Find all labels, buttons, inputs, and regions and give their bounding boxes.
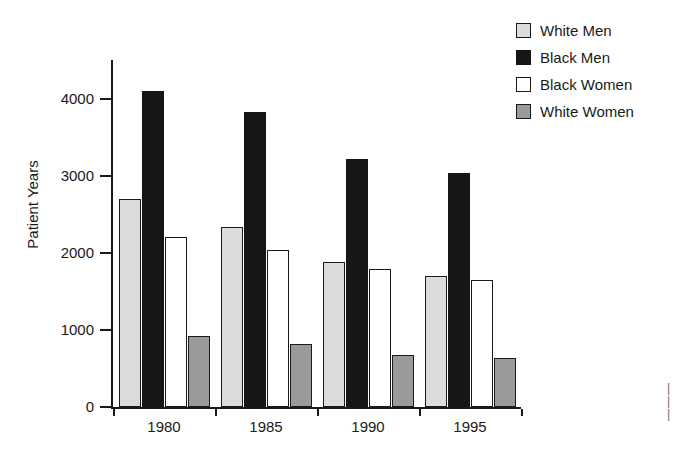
y-axis-title: Patient Years [24, 125, 41, 285]
y-tick-label-text: 2000 [32, 245, 94, 260]
x-tick-1995 [419, 409, 421, 416]
bar-1985-black-men [244, 112, 266, 407]
y-tick-label-text: 3000 [32, 168, 94, 183]
bar-1985-white-men [221, 227, 243, 407]
bar-1990-black-women [369, 269, 391, 407]
bar-1995-white-women [494, 358, 516, 407]
y-tick-1000 [100, 329, 111, 331]
legend-swatch-icon [516, 23, 531, 38]
bar-1990-black-men [346, 159, 368, 407]
x-tick-label-1995: 1995 [425, 418, 515, 435]
y-tick-label-4000: 4000 [26, 91, 94, 106]
legend-swatch-icon [516, 50, 531, 65]
bar-1980-black-women [165, 237, 187, 407]
legend-swatch-icon [516, 104, 531, 119]
bar-1980-white-women [188, 336, 210, 407]
x-tick-end [521, 409, 523, 416]
y-tick-label-text: 4000 [32, 91, 94, 106]
x-tick-label-1985: 1985 [221, 418, 311, 435]
bar-1990-white-men [323, 262, 345, 407]
bar-1995-white-men [425, 276, 447, 407]
bar-1985-black-women [267, 250, 289, 407]
legend-swatch-icon [516, 77, 531, 92]
legend-item-white-women[interactable]: White Women [516, 99, 676, 124]
y-tick-label-text: 1000 [32, 322, 94, 337]
legend-label: White Men [540, 22, 612, 39]
bar-1990-white-women [392, 355, 414, 407]
y-tick-4000 [100, 98, 111, 100]
chart-figure: 01000200030004000 Patient Years 19801985… [0, 0, 681, 458]
y-tick-label-text: 0 [32, 399, 94, 414]
bar-1995-black-women [471, 280, 493, 407]
x-tick-label-1990: 1990 [323, 418, 413, 435]
x-axis-line [111, 407, 521, 409]
bar-1985-white-women [290, 344, 312, 407]
x-tick-1990 [317, 409, 319, 416]
legend-item-white-men[interactable]: White Men [516, 18, 676, 43]
legend-item-black-men[interactable]: Black Men [516, 45, 676, 70]
legend-label: Black Women [540, 76, 632, 93]
legend-item-black-women[interactable]: Black Women [516, 72, 676, 97]
legend-label: White Women [540, 103, 634, 120]
x-tick-1980 [113, 409, 115, 416]
bar-1995-black-men [448, 173, 470, 407]
y-tick-0 [100, 406, 111, 408]
chart-legend: White MenBlack MenBlack WomenWhite Women [516, 18, 676, 126]
bar-1980-black-men [142, 91, 164, 407]
y-tick-label-1000: 1000 [26, 322, 94, 337]
plot-area [113, 60, 521, 407]
y-tick-2000 [100, 252, 111, 254]
x-tick-label-1980: 1980 [119, 418, 209, 435]
y-tick-label-0: 0 [26, 399, 94, 414]
y-tick-3000 [100, 175, 111, 177]
page-edge-marks: | | | [667, 382, 679, 422]
legend-label: Black Men [540, 49, 610, 66]
bar-1980-white-men [119, 199, 141, 407]
x-tick-1985 [215, 409, 217, 416]
